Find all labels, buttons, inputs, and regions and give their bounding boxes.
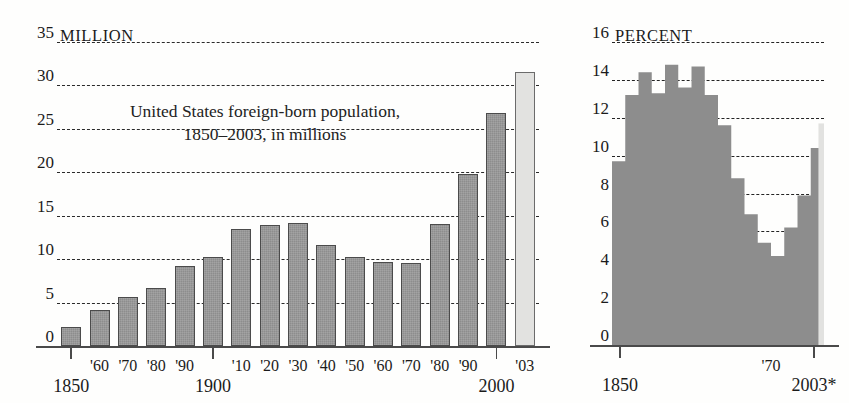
ytick-label-5: 5	[24, 285, 54, 302]
ytick-label-20: 20	[24, 154, 54, 171]
step-highlight-2003	[818, 123, 824, 345]
ytick-label-pct-6: 6	[583, 213, 609, 230]
x-axis-baseline-left	[36, 346, 550, 348]
ytick-label-pct-0: 0	[583, 327, 609, 344]
bar-60	[90, 310, 110, 346]
xlabel-pct-2003: 2003*	[769, 377, 849, 393]
xlabel-pct-1850: 1850	[585, 377, 655, 393]
gridline-30	[57, 85, 539, 86]
chart-panel-population-millions: MILLION 35 30 25 20 15 10 5 0 United Sta…	[0, 0, 565, 403]
ytick-label-30: 30	[24, 67, 54, 84]
xtick-major-1850	[70, 346, 72, 359]
bar-1900	[203, 257, 223, 346]
xlabel-90-4: '90	[168, 358, 202, 374]
bar-30	[288, 223, 308, 346]
bar-70	[401, 263, 421, 346]
bar-1850	[61, 327, 81, 346]
bar-90	[458, 174, 478, 346]
x-axis-baseline-right	[590, 345, 839, 347]
plot-area-left	[57, 42, 539, 346]
bar-03	[515, 72, 535, 346]
xtick-major-1900	[212, 346, 214, 359]
xtick-major-pct-1850	[619, 345, 621, 358]
xlabel-03-16: '03	[508, 358, 542, 374]
gridline-35	[57, 42, 539, 43]
ytick-label-pct-16: 16	[583, 24, 609, 41]
ytick-label-10: 10	[24, 241, 54, 258]
chart-caption-left: United States foreign-born population, 1…	[120, 100, 410, 146]
xlabel-2000: 2000	[466, 378, 526, 394]
bar-60	[373, 262, 393, 346]
bar-50	[345, 257, 365, 346]
ytick-label-pct-10: 10	[583, 138, 609, 155]
ytick-label-pct-8: 8	[583, 176, 609, 193]
ytick-label-0: 0	[24, 328, 54, 345]
xlabel-90-14: '90	[451, 358, 485, 374]
ytick-label-pct-4: 4	[583, 251, 609, 268]
step-polygon-percent	[612, 65, 824, 345]
xlabel-1850: 1850	[41, 378, 101, 394]
bar-20	[260, 225, 280, 346]
ytick-label-25: 25	[24, 111, 54, 128]
infographic-figure: MILLION 35 30 25 20 15 10 5 0 United Sta…	[0, 0, 849, 403]
bar-40	[316, 245, 336, 346]
plot-area-right	[612, 42, 824, 345]
xlabel-pct-70: '70	[751, 358, 791, 374]
bar-70	[118, 297, 138, 346]
xlabel-1900: 1900	[183, 378, 243, 394]
ytick-label-pct-12: 12	[583, 100, 609, 117]
bar-90	[175, 266, 195, 346]
ytick-label-35: 35	[24, 24, 54, 41]
ytick-label-pct-14: 14	[583, 62, 609, 79]
bar-10	[231, 229, 251, 346]
bar-80	[430, 224, 450, 346]
bar-80	[146, 288, 166, 346]
xtick-major-pct-2003	[813, 345, 815, 358]
step-area-percent	[612, 42, 824, 345]
xtick-major-2000	[496, 346, 498, 359]
ytick-label-15: 15	[24, 198, 54, 215]
bar-2000	[486, 113, 506, 346]
chart-panel-percent-of-total: PERCENT 16 14 12 10 8 6 4 2 0 Foreign-bo…	[565, 0, 849, 403]
ytick-label-pct-2: 2	[583, 289, 609, 306]
